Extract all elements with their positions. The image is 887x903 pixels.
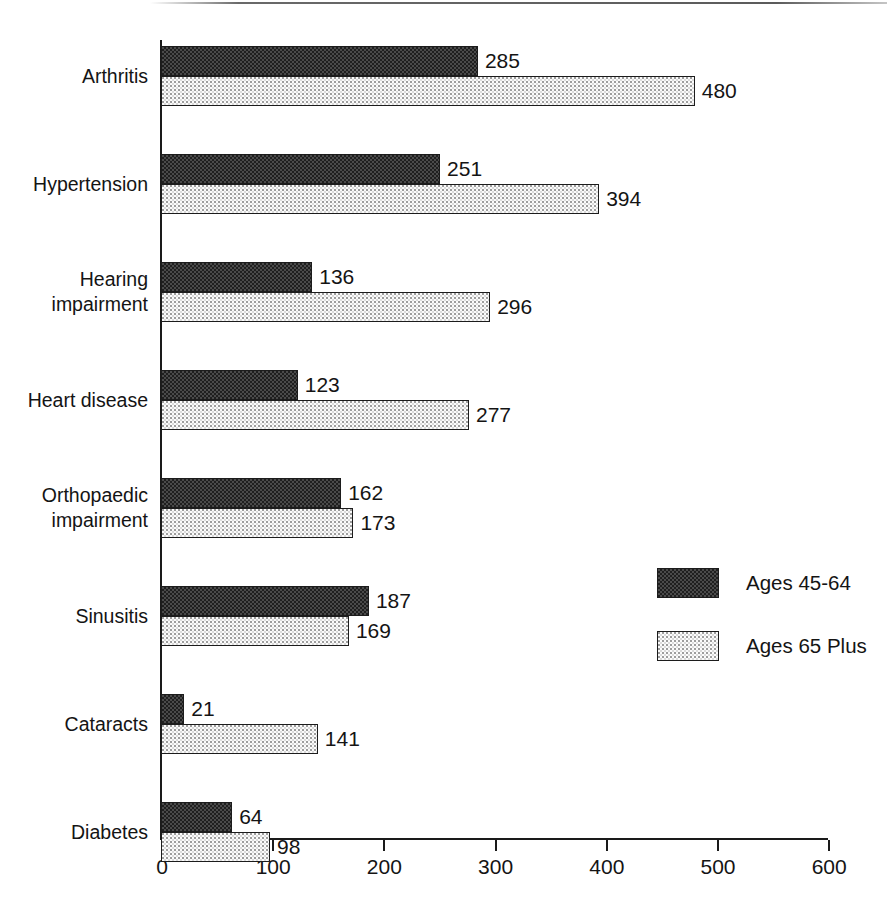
x-tick-label-600: 600 bbox=[812, 854, 847, 879]
bar-value-diabetes-series-0: 64 bbox=[239, 805, 262, 829]
category-label-orthopaedic-impairment: Orthopaedic impairment bbox=[0, 483, 148, 533]
legend-item-ages-45-64[interactable]: Ages 45-64 bbox=[657, 568, 851, 598]
x-tick-100 bbox=[272, 840, 274, 851]
bar-value-sinusitis-series-1: 169 bbox=[356, 619, 391, 643]
bar-hearing-impairment-series-1[interactable] bbox=[161, 292, 490, 322]
bar-value-diabetes-series-1: 98 bbox=[277, 835, 300, 859]
bar-orthopaedic-impairment-series-0[interactable] bbox=[161, 478, 341, 508]
bar-value-heart-disease-series-0: 123 bbox=[305, 373, 340, 397]
category-label-diabetes: Diabetes bbox=[0, 820, 148, 845]
bar-heart-disease-series-0[interactable] bbox=[161, 370, 298, 400]
bar-cataracts-series-0[interactable] bbox=[161, 694, 184, 724]
legend-swatch-ages-45-64 bbox=[657, 568, 719, 598]
legend-label-ages-65-plus: Ages 65 Plus bbox=[746, 634, 867, 658]
bar-sinusitis-series-0[interactable] bbox=[161, 586, 369, 616]
bar-hearing-impairment-series-0[interactable] bbox=[161, 262, 312, 292]
x-tick-200 bbox=[383, 840, 385, 851]
bar-arthritis-series-0[interactable] bbox=[161, 46, 478, 76]
category-label-hearing-impairment: Hearing impairment bbox=[0, 267, 148, 317]
x-tick-label-200: 200 bbox=[367, 854, 402, 879]
bar-value-arthritis-series-0: 285 bbox=[485, 49, 520, 73]
bar-value-arthritis-series-1: 480 bbox=[702, 79, 737, 103]
category-label-cataracts: Cataracts bbox=[0, 712, 148, 737]
bar-diabetes-series-1[interactable] bbox=[161, 832, 270, 862]
category-label-sinusitis: Sinusitis bbox=[0, 604, 148, 629]
bar-value-hearing-impairment-series-1: 296 bbox=[497, 295, 532, 319]
bar-hypertension-series-1[interactable] bbox=[161, 184, 599, 214]
bar-sinusitis-series-1[interactable] bbox=[161, 616, 349, 646]
x-tick-600 bbox=[828, 840, 830, 851]
bar-hypertension-series-0[interactable] bbox=[161, 154, 440, 184]
bar-value-hypertension-series-0: 251 bbox=[447, 157, 482, 181]
chart-container: 0100200300400500600 ArthritisHypertensio… bbox=[0, 0, 887, 903]
bar-value-cataracts-series-0: 21 bbox=[191, 697, 214, 721]
legend-item-ages-65-plus[interactable]: Ages 65 Plus bbox=[657, 631, 867, 661]
category-label-hypertension: Hypertension bbox=[0, 172, 148, 197]
bar-value-hearing-impairment-series-0: 136 bbox=[319, 265, 354, 289]
bar-arthritis-series-1[interactable] bbox=[161, 76, 695, 106]
bar-heart-disease-series-1[interactable] bbox=[161, 400, 469, 430]
bar-diabetes-series-0[interactable] bbox=[161, 802, 232, 832]
x-tick-400 bbox=[606, 840, 608, 851]
legend-swatch-ages-65-plus bbox=[657, 631, 719, 661]
category-label-arthritis: Arthritis bbox=[0, 64, 148, 89]
x-tick-500 bbox=[717, 840, 719, 851]
bar-value-sinusitis-series-0: 187 bbox=[376, 589, 411, 613]
legend-label-ages-45-64: Ages 45-64 bbox=[746, 571, 851, 595]
bar-value-orthopaedic-impairment-series-0: 162 bbox=[348, 481, 383, 505]
x-tick-label-500: 500 bbox=[700, 854, 735, 879]
bar-value-heart-disease-series-1: 277 bbox=[476, 403, 511, 427]
bar-value-cataracts-series-1: 141 bbox=[325, 727, 360, 751]
x-tick-label-300: 300 bbox=[478, 854, 513, 879]
bar-value-hypertension-series-1: 394 bbox=[606, 187, 641, 211]
bar-value-orthopaedic-impairment-series-1: 173 bbox=[360, 511, 395, 535]
plot-area: 0100200300400500600 ArthritisHypertensio… bbox=[0, 0, 887, 903]
category-label-heart-disease: Heart disease bbox=[0, 388, 148, 413]
bar-orthopaedic-impairment-series-1[interactable] bbox=[161, 508, 353, 538]
bar-cataracts-series-1[interactable] bbox=[161, 724, 318, 754]
x-tick-300 bbox=[495, 840, 497, 851]
x-tick-label-400: 400 bbox=[589, 854, 624, 879]
